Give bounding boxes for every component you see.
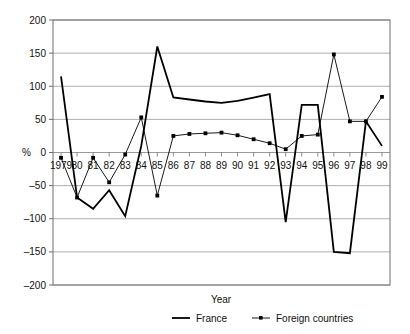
x-axis-tick-label: 95 [312, 160, 324, 171]
data-point-marker [284, 147, 288, 151]
y-axis-tick-label: –200 [24, 280, 47, 291]
y-axis-tick-label: 100 [29, 81, 46, 92]
data-point-marker [348, 119, 352, 123]
data-point-marker [155, 194, 159, 198]
x-axis-title: Year [211, 294, 232, 305]
legend-swatch-foreign-countries-marker [259, 316, 263, 320]
data-point-marker [236, 133, 240, 137]
x-axis-tick-label: 1979 [50, 160, 73, 171]
x-axis-tick-label: 99 [376, 160, 388, 171]
x-axis-tick-label: 88 [200, 160, 212, 171]
y-axis-title: % [22, 147, 31, 158]
data-point-marker [380, 95, 384, 99]
x-axis-tick-label: 93 [280, 160, 292, 171]
x-axis-tick-label: 85 [152, 160, 164, 171]
data-point-marker [75, 196, 79, 200]
data-point-marker [300, 134, 304, 138]
y-axis-tick-label: –100 [24, 213, 47, 224]
x-axis-tick-label: 92 [264, 160, 276, 171]
data-point-marker [91, 156, 95, 160]
x-axis-tick-label: 97 [344, 160, 356, 171]
x-axis-tick-label: 87 [184, 160, 196, 171]
x-axis-tick-label: 89 [216, 160, 228, 171]
x-axis-tick-label: 91 [248, 160, 260, 171]
line-chart: 200150100500–50–100–150–200 197980818283… [0, 0, 410, 334]
data-point-marker [107, 180, 111, 184]
data-point-marker [220, 131, 224, 135]
x-axis-tick-label: 96 [328, 160, 340, 171]
data-point-marker [123, 153, 127, 157]
y-axis-tick-label: 200 [29, 15, 46, 26]
legend-label-foreign-countries: Foreign countries [276, 313, 353, 324]
legend-label-france: France [196, 313, 228, 324]
chart-canvas: 200150100500–50–100–150–200 197980818283… [0, 0, 410, 334]
data-point-marker [204, 131, 208, 135]
data-point-marker [332, 53, 336, 57]
x-axis-tick-label: 94 [296, 160, 308, 171]
y-axis-tick-label: 50 [35, 114, 47, 125]
y-axis-tick-label: –50 [29, 180, 46, 191]
x-axis-tick-label: 86 [168, 160, 180, 171]
y-axis-tick-label: 150 [29, 48, 46, 59]
data-point-marker [59, 156, 63, 160]
y-axis-tick-label: 0 [40, 147, 46, 158]
y-axis-tick-label: –150 [24, 246, 47, 257]
data-point-marker [364, 119, 368, 123]
data-point-marker [268, 141, 272, 145]
x-axis-tick-label: 82 [104, 160, 116, 171]
data-point-marker [171, 134, 175, 138]
data-point-marker [139, 115, 143, 119]
data-point-marker [252, 137, 256, 141]
data-point-marker [316, 133, 320, 137]
x-axis-tick-label: 90 [232, 160, 244, 171]
data-point-marker [188, 132, 192, 136]
x-axis-ticks [61, 153, 382, 157]
x-axis-tick-label: 98 [360, 160, 372, 171]
